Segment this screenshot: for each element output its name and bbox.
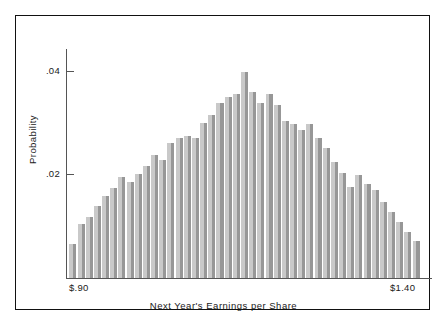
histogram-bar (347, 187, 354, 278)
histogram-bar (290, 124, 297, 278)
histogram-bar (225, 97, 232, 278)
histogram-bar (86, 217, 93, 278)
histogram-bar (69, 244, 76, 278)
bar-side-shadow (245, 72, 248, 278)
histogram-bar (184, 136, 191, 278)
bar-side-shadow (384, 202, 387, 278)
x-axis-tick-label-left: $.90 (69, 282, 89, 293)
histogram-bar (159, 160, 166, 278)
histogram-bar (274, 105, 281, 278)
histogram-bar (200, 123, 207, 278)
bar-side-shadow (73, 244, 76, 278)
histogram-bar (216, 103, 223, 278)
figure-canvas: .04 .02 Probability $.90 $1.40 Next Year… (0, 0, 445, 325)
bar-side-shadow (90, 217, 93, 278)
histogram-bar (151, 155, 158, 279)
bar-side-shadow (114, 188, 117, 278)
bar-side-shadow (122, 177, 125, 278)
bar-side-shadow (310, 124, 313, 278)
histogram-bar (176, 138, 183, 278)
bar-side-shadow (147, 166, 150, 278)
bar-side-shadow (237, 94, 240, 278)
y-axis-title: Probability (27, 98, 38, 182)
bar-side-shadow (302, 130, 305, 278)
bar-side-shadow (367, 184, 370, 278)
histogram-bar (413, 241, 420, 278)
bar-side-shadow (408, 232, 411, 278)
histogram-bar (102, 196, 109, 278)
histogram-bar (372, 190, 379, 279)
bar-side-shadow (106, 196, 109, 278)
histogram-bar (306, 124, 313, 278)
bar-side-shadow (220, 103, 223, 278)
bar-side-shadow (343, 173, 346, 278)
bar-side-shadow (196, 138, 199, 278)
histogram-bar (380, 202, 387, 278)
bar-side-shadow (286, 121, 289, 278)
y-axis-tick-label-004: .04 (28, 65, 60, 76)
bar-side-shadow (139, 174, 142, 278)
bar-side-shadow (82, 224, 85, 278)
bar-side-shadow (261, 103, 264, 278)
histogram-bar (298, 130, 305, 278)
bar-side-shadow (269, 94, 272, 278)
histogram-bar (266, 94, 273, 278)
histogram-bar (241, 72, 248, 278)
bar-side-shadow (180, 138, 183, 278)
bar-side-shadow (98, 206, 101, 278)
bar-side-shadow (335, 162, 338, 278)
bar-side-shadow (253, 92, 256, 278)
chart-frame: .04 .02 Probability $.90 $1.40 Next Year… (15, 15, 430, 310)
histogram-bar (110, 188, 117, 278)
histogram-bar (282, 121, 289, 278)
x-axis-tick-label-right: $1.40 (390, 282, 415, 293)
histogram-bar (143, 166, 150, 278)
x-axis-title: Next Year's Earnings per Share (16, 300, 431, 311)
histogram-bar (331, 162, 338, 278)
histogram-bar (167, 143, 174, 278)
bar-side-shadow (327, 148, 330, 278)
histogram-bar (257, 103, 264, 278)
bar-side-shadow (171, 143, 174, 278)
bar-side-shadow (400, 222, 403, 278)
histogram-bar (118, 177, 125, 278)
histogram-bar (127, 182, 134, 278)
histogram-bar (233, 94, 240, 278)
histogram-bar (396, 222, 403, 278)
histogram-bar (94, 206, 101, 278)
x-axis-line (66, 278, 432, 279)
bar-side-shadow (204, 123, 207, 278)
histogram-bar (135, 174, 142, 278)
histogram-bar (192, 138, 199, 278)
histogram-bar (78, 224, 85, 278)
bar-side-shadow (212, 115, 215, 278)
bar-side-shadow (392, 212, 395, 278)
histogram-bar (249, 92, 256, 278)
bar-side-shadow (416, 241, 419, 278)
histogram-bar (323, 148, 330, 278)
bar-side-shadow (229, 97, 232, 278)
bar-side-shadow (294, 124, 297, 278)
histogram-bar (339, 173, 346, 278)
histogram-bar (404, 232, 411, 278)
bar-side-shadow (163, 160, 166, 278)
bar-side-shadow (318, 138, 321, 278)
bar-side-shadow (351, 187, 354, 278)
bar-side-shadow (188, 136, 191, 278)
bar-side-shadow (359, 175, 362, 278)
plot-area (66, 49, 432, 278)
histogram-bar (355, 175, 362, 278)
histogram-bar (315, 138, 322, 278)
bar-side-shadow (376, 190, 379, 279)
histogram-bar (388, 212, 395, 278)
bar-side-shadow (278, 105, 281, 278)
histogram-bar (364, 184, 371, 278)
bar-side-shadow (155, 155, 158, 279)
histogram-bar (208, 115, 215, 278)
bar-side-shadow (131, 182, 134, 278)
